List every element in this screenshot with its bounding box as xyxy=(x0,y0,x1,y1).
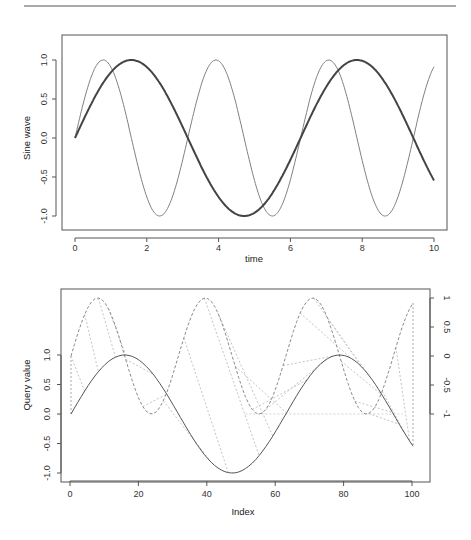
plot1-ylabel: Sine wave xyxy=(21,116,32,160)
plot2-xtick-label: 100 xyxy=(404,489,419,499)
plot1-xtick-label: 8 xyxy=(360,243,365,253)
plot1-ytick-label: -0.5 xyxy=(39,169,49,185)
plot2-alignment-lines xyxy=(71,298,413,473)
plot1-ytick-label: 0.5 xyxy=(39,93,49,106)
plot2-rtick-label: 0.5 xyxy=(442,321,452,334)
plot2-series-reference xyxy=(71,298,413,414)
plot1-series-sin2t xyxy=(75,60,434,216)
plot2-xtick-label: 40 xyxy=(202,489,212,499)
plot1-xtick-label: 2 xyxy=(144,243,149,253)
plot2-ytick-label: -0.5 xyxy=(42,436,52,452)
plot2-xtick-label: 0 xyxy=(67,489,72,499)
plot1-xlabel: time xyxy=(245,253,263,264)
plot2-rtick-label: 1 xyxy=(442,295,452,300)
plot-sine-wave: 0246810 -1.0-0.50.00.51.0 time Sine wave xyxy=(21,35,447,264)
plot2-xtick-label: 60 xyxy=(270,489,280,499)
plot1-ytick-label: 1.0 xyxy=(39,54,49,67)
plot2-ytick-label: -1.0 xyxy=(42,465,52,481)
plot2-ylabel: Query value xyxy=(21,359,32,410)
plot1-ytick-label: -1.0 xyxy=(39,208,49,224)
plot2-y-axis: -1.0-0.50.00.51.0 xyxy=(42,349,61,481)
plot2-rtick-label: 0 xyxy=(442,353,452,358)
figure: 0246810 -1.0-0.50.00.51.0 time Sine wave… xyxy=(0,0,471,540)
plot2-rtick-label: -0.5 xyxy=(442,377,452,393)
plot2-ytick-label: 1.0 xyxy=(42,349,52,362)
plot1-xtick-label: 0 xyxy=(72,243,77,253)
plot1-y-axis: -1.0-0.50.00.51.0 xyxy=(39,54,56,224)
plot2-ytick-label: 0.0 xyxy=(42,408,52,421)
plot1-series-sint xyxy=(75,60,434,216)
plot1-xtick-label: 4 xyxy=(216,243,221,253)
plot1-xtick-label: 6 xyxy=(288,243,293,253)
plot-query-alignment: 020406080100 -1.0-0.50.00.51.0 -1-0.500.… xyxy=(21,289,452,517)
plot1-ytick-label: 0.0 xyxy=(39,132,49,145)
plot1-x-axis: 0246810 xyxy=(72,238,439,253)
plot2-x-axis: 020406080100 xyxy=(67,481,419,499)
plot2-right-axis: -1-0.500.51 xyxy=(430,295,452,418)
plot2-ytick-label: 0.5 xyxy=(42,378,52,391)
plot2-xtick-label: 80 xyxy=(339,489,349,499)
plot2-xtick-label: 20 xyxy=(133,489,143,499)
plot1-xtick-label: 10 xyxy=(429,243,439,253)
plot2-frame xyxy=(61,289,430,482)
plot2-xlabel: Index xyxy=(231,506,254,517)
plot2-rtick-label: -1 xyxy=(442,410,452,418)
